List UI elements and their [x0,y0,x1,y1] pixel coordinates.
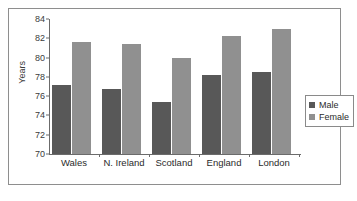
x-axis-tick-mark [299,154,300,157]
plot-area: 7072747678808284 [49,19,299,154]
bar-london-female[interactable] [272,29,291,154]
x-axis-label-scotland: Scotland [149,158,199,168]
bar-group [149,19,199,154]
bar-n-ireland-male[interactable] [102,89,121,154]
legend-swatch-female-icon [309,114,315,120]
y-axis-title: Years [18,61,27,84]
x-axis-label-wales: Wales [49,158,99,168]
bar-wales-male[interactable] [52,85,71,154]
legend-item-male[interactable]: Male [309,99,349,111]
chart-frame: Years 7072747678808284 Male Female Wales… [8,8,341,185]
x-axis-line [49,154,301,155]
x-axis-tick-mark [149,154,150,157]
bar-wales-female[interactable] [72,42,91,154]
bar-london-male[interactable] [252,72,271,154]
x-axis-tick-mark [199,154,200,157]
bar-group [99,19,149,154]
bar-group [199,19,249,154]
legend-item-female[interactable]: Female [309,111,349,123]
bar-england-male[interactable] [202,75,221,154]
legend-label-male: Male [319,101,339,110]
x-axis-label-n-ireland: N. Ireland [99,158,149,168]
x-axis-label-london: London [249,158,299,168]
bar-england-female[interactable] [222,36,241,154]
legend-label-female: Female [319,113,349,122]
bar-scotland-female[interactable] [172,58,191,154]
x-axis-tick-mark [99,154,100,157]
bar-group [49,19,99,154]
chart-legend: Male Female [305,95,354,127]
bar-n-ireland-female[interactable] [122,44,141,154]
x-axis-label-england: England [199,158,249,168]
x-axis-tick-mark [249,154,250,157]
bar-group [249,19,299,154]
bar-scotland-male[interactable] [152,102,171,154]
legend-swatch-male-icon [309,102,315,108]
